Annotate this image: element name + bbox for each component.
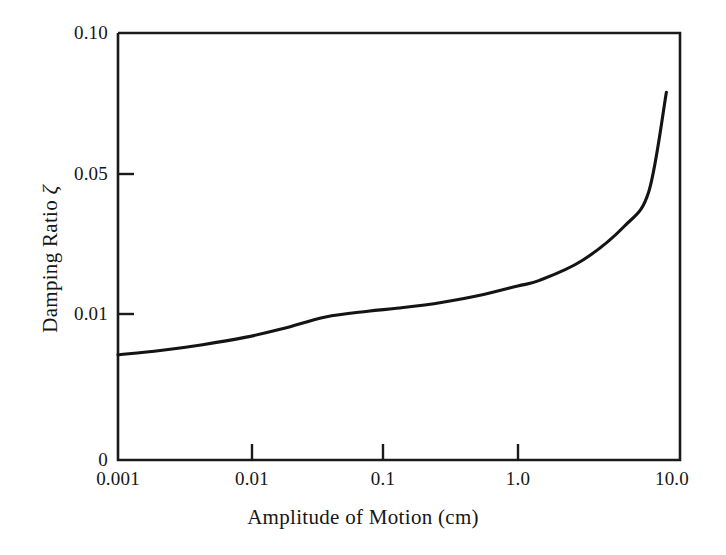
data-curve-damping-ratio <box>118 92 666 355</box>
x-tick-label-1: 0.01 <box>235 468 269 490</box>
x-axis-title: Amplitude of Motion (cm) <box>0 505 726 530</box>
y-axis-title-text: Damping Ratio <box>38 200 62 333</box>
axis-frame <box>118 33 680 460</box>
x-tick-label-3: 1.0 <box>506 468 530 490</box>
plot-border <box>118 33 680 460</box>
y-tick-label-0: 0.10 <box>40 22 108 44</box>
y-axis-title-symbol: ζ <box>37 185 62 194</box>
x-tick-label-4: 10.0 <box>655 468 689 490</box>
y-axis-ticks <box>118 174 134 314</box>
x-axis-ticks <box>252 444 518 460</box>
x-tick-label-2: 0.1 <box>371 468 395 490</box>
figure-container: 0.10 0.05 0.01 0 0.001 0.01 0.1 1.0 10.0… <box>0 0 726 555</box>
x-tick-label-0: 0.001 <box>96 468 140 490</box>
y-axis-title: Damping Ratio ζ <box>37 89 63 429</box>
